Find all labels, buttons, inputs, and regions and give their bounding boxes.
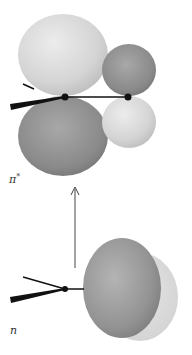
orbital-diagram [0, 0, 192, 355]
pi-star-lobe-upper-right [102, 44, 156, 96]
n-lobe-front [83, 238, 161, 338]
n-orbital [10, 238, 178, 341]
carbon-atom-lower [62, 286, 68, 292]
bond-wedge-lower [10, 288, 65, 303]
pi-star-label-superscript: * [16, 172, 20, 181]
oxygen-atom-upper [125, 94, 132, 101]
pi-star-lobe-upper-left [18, 14, 108, 96]
pi-star-orbital [10, 14, 156, 176]
pi-star-lobe-lower-right [102, 96, 156, 148]
carbon-atom-upper [62, 94, 69, 101]
transition-arrow [71, 187, 79, 268]
pi-star-lobe-lower-left [18, 96, 108, 176]
pi-star-label: π* [9, 173, 20, 185]
n-label: n [10, 325, 17, 336]
bond-line-lower [23, 277, 65, 289]
